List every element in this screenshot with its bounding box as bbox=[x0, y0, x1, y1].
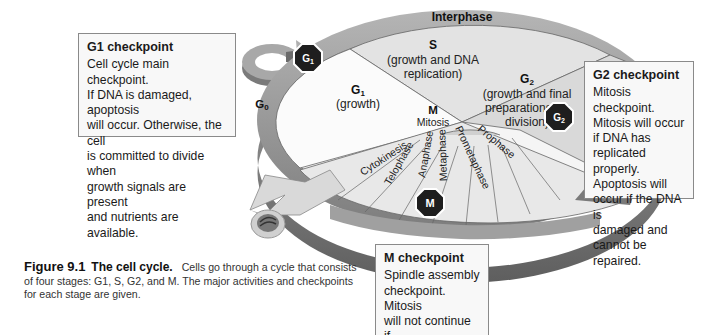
mitosis-label: Mitosis bbox=[417, 116, 450, 128]
g2-checkpoint-sign: G2 bbox=[545, 103, 573, 131]
figure-number: Figure 9.1 bbox=[24, 259, 85, 274]
phase-metaphase: Metaphase bbox=[435, 129, 449, 181]
figure-title: The cell cycle. bbox=[91, 260, 172, 274]
s-desc2: replication) bbox=[404, 67, 463, 81]
cell-illustration bbox=[251, 210, 285, 238]
g1-checkpoint-title: G1 checkpoint bbox=[87, 40, 227, 55]
g1-checkpoint-body: Cell cycle main checkpoint. If DNA is da… bbox=[87, 57, 227, 241]
interphase-label: Interphase bbox=[432, 10, 493, 24]
svg-text:M: M bbox=[425, 197, 434, 209]
g1-checkpoint-box: G1 checkpoint Cell cycle main checkpoint… bbox=[78, 33, 236, 137]
g1-checkpoint-sign: G1 bbox=[294, 44, 322, 72]
m-checkpoint-body: Spindle assembly checkpoint. Mitosis wil… bbox=[384, 268, 480, 335]
g2-checkpoint-box: G2 checkpoint Mitosis checkpoint. Mitosi… bbox=[584, 61, 694, 199]
m-checkpoint-title: M checkpoint bbox=[384, 251, 480, 266]
g2-desc: (growth and final bbox=[483, 87, 572, 101]
figure-caption: Figure 9.1 The cell cycle. Cells go thro… bbox=[24, 260, 364, 302]
m-checkpoint-sign: M bbox=[416, 189, 444, 217]
g2-desc3: division) bbox=[505, 115, 549, 129]
g1-desc: (growth) bbox=[336, 97, 380, 111]
s-desc: (growth and DNA bbox=[387, 53, 479, 67]
g2-checkpoint-body: Mitosis checkpoint. Mitosis will occur i… bbox=[593, 85, 685, 269]
m-label: M bbox=[428, 104, 438, 116]
g2-checkpoint-title: G2 checkpoint bbox=[593, 68, 685, 83]
m-checkpoint-box: M checkpoint Spindle assembly checkpoint… bbox=[375, 244, 489, 335]
s-label: S bbox=[429, 38, 437, 52]
